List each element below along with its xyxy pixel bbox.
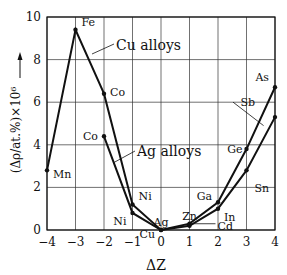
x-tick-label: 2	[214, 235, 222, 249]
data-point	[273, 85, 277, 89]
point-label: Mn	[53, 168, 71, 181]
data-point	[244, 147, 248, 151]
data-point	[216, 207, 220, 211]
y-tick-label: 0	[33, 223, 41, 237]
point-label: Ag	[153, 216, 169, 229]
point-label: Co	[110, 86, 125, 99]
point-label: Fe	[82, 16, 96, 29]
y-axis-arrow	[18, 52, 23, 78]
y-tick-label: 2	[33, 180, 41, 194]
data-point	[102, 91, 106, 95]
ag-alloys-annotation: Ag alloys	[136, 143, 201, 159]
point-label: Cu	[139, 228, 155, 241]
point-label: In	[224, 211, 235, 224]
y-tick-label: 10	[26, 10, 41, 24]
data-point	[45, 168, 49, 172]
point-label: Ga	[197, 190, 213, 203]
x-tick-label: 4	[271, 235, 279, 249]
x-tick-label: 3	[243, 235, 251, 249]
y-tick-label: 8	[33, 53, 41, 67]
x-tick-label: 0	[157, 235, 165, 249]
point-label: Co	[83, 130, 98, 143]
x-tick-label: −3	[67, 235, 85, 249]
data-point	[273, 115, 277, 119]
x-tick-label: 1	[186, 235, 194, 249]
chart: −4−3−2−1012340246810 MnFeCoNiCuZnGaGeAsC…	[0, 0, 287, 275]
point-label: Ge	[227, 143, 242, 156]
point-label: Ni	[113, 215, 127, 228]
data-point	[187, 224, 191, 228]
leader-line	[113, 151, 135, 163]
x-tick-label: −2	[95, 235, 113, 249]
data-point	[102, 134, 106, 138]
cu-alloys-annotation: Cu alloys	[116, 37, 181, 53]
point-label: Sn	[255, 182, 270, 195]
point-label: As	[254, 71, 269, 84]
x-tick-label: −4	[38, 235, 56, 249]
data-point	[130, 211, 134, 215]
y-tick-label: 4	[33, 138, 41, 152]
point-label: Zn	[182, 210, 197, 223]
leader-line	[92, 44, 114, 54]
x-axis-label: ΔZ	[146, 257, 166, 273]
data-point	[244, 168, 248, 172]
y-tick-label: 6	[33, 95, 41, 109]
data-point	[216, 200, 220, 204]
data-point	[73, 28, 77, 32]
point-label: Ni	[139, 190, 153, 203]
y-axis-label: (Δρ/at.%)×10⁶	[9, 87, 23, 174]
point-label: Sb	[240, 96, 255, 109]
